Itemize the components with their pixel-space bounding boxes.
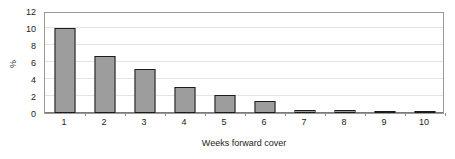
bar[interactable] (375, 111, 396, 113)
bar-slot (325, 13, 365, 113)
x-axis-tick-labels: 12345678910 (44, 118, 444, 132)
x-axis-tick-mark (365, 113, 366, 116)
x-axis-tick-mark (85, 113, 86, 116)
bar[interactable] (135, 69, 156, 113)
x-axis-tick-label: 3 (141, 118, 146, 127)
y-axis-tick-label: 12 (26, 8, 36, 17)
x-axis-tick-label: 7 (301, 118, 306, 127)
y-axis-tick-label: 8 (31, 42, 36, 51)
x-axis-tick-mark (205, 113, 206, 116)
x-axis-tick-mark (125, 113, 126, 116)
x-axis-tick-label: 1 (61, 118, 66, 127)
y-axis-tick-labels: 024681012 (0, 12, 40, 114)
bar-slot (205, 13, 245, 113)
bar[interactable] (415, 111, 436, 113)
bar[interactable] (295, 110, 316, 113)
y-axis-tick-label: 4 (31, 76, 36, 85)
bar-slot (125, 13, 165, 113)
bar[interactable] (95, 56, 116, 113)
bar-slot (405, 13, 445, 113)
bar-series (45, 13, 443, 113)
x-axis-tick-label: 4 (181, 118, 186, 127)
x-axis-tick-label: 2 (101, 118, 106, 127)
x-axis-tick-label: 6 (261, 118, 266, 127)
y-axis-tick-label: 10 (26, 25, 36, 34)
x-axis-tick-label: 8 (341, 118, 346, 127)
y-axis-tick-label: 2 (31, 93, 36, 102)
bar-slot (165, 13, 205, 113)
x-axis-title: Weeks forward cover (44, 139, 444, 148)
x-axis-tick-label: 10 (419, 118, 429, 127)
y-axis-tick-label: 6 (31, 59, 36, 68)
bar[interactable] (255, 101, 276, 113)
plot-area (44, 12, 444, 114)
bar-slot (45, 13, 85, 113)
bar[interactable] (335, 110, 356, 113)
x-axis-tick-mark (245, 113, 246, 116)
y-axis-tick-label: 0 (31, 110, 36, 119)
x-axis-tick-label: 9 (381, 118, 386, 127)
bar-slot (85, 13, 125, 113)
x-axis-tick-mark (165, 113, 166, 116)
x-axis-tick-mark (325, 113, 326, 116)
bar-slot (285, 13, 325, 113)
x-axis-tick-mark (285, 113, 286, 116)
bar-slot (365, 13, 405, 113)
bar[interactable] (215, 95, 236, 113)
bar[interactable] (175, 87, 196, 113)
x-axis-tick-mark (405, 113, 406, 116)
x-axis-tick-mark (445, 113, 446, 116)
x-axis-tick-label: 5 (221, 118, 226, 127)
bar-slot (245, 13, 285, 113)
bar-chart: % 024681012 12345678910 Weeks forward co… (0, 0, 455, 159)
bar[interactable] (55, 28, 76, 113)
